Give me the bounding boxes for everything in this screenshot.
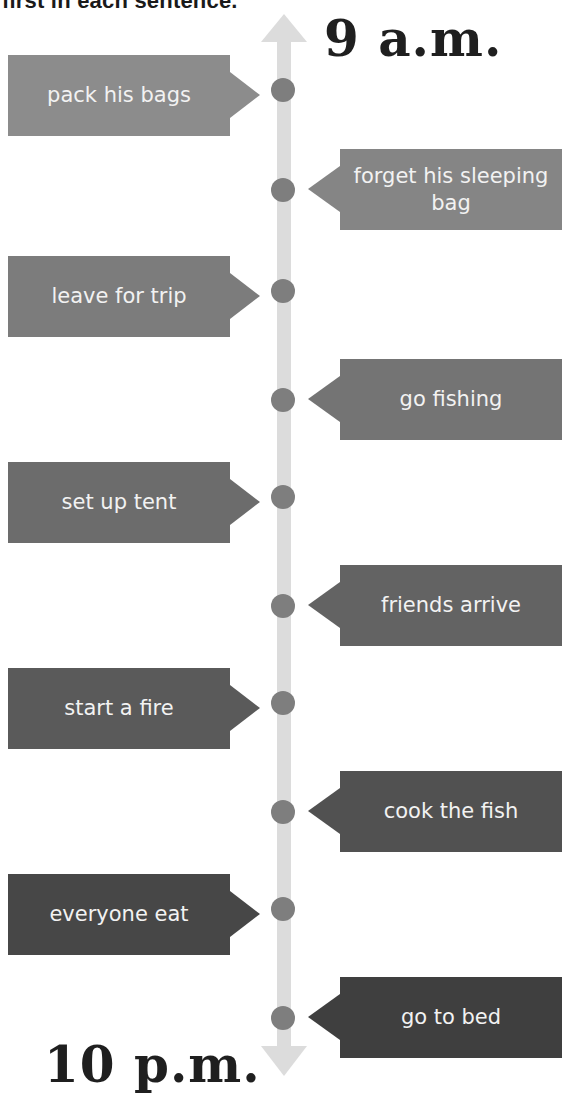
timeline-dot xyxy=(271,178,295,202)
event-callout: forget his sleeping bag xyxy=(340,149,562,230)
timeline-row: everyone eat xyxy=(0,874,572,956)
event-label: go to bed xyxy=(401,1004,501,1030)
event-callout: leave for trip xyxy=(8,256,230,337)
timeline-dot xyxy=(271,1006,295,1030)
callout-pointer-icon xyxy=(230,891,260,937)
callout-pointer-icon xyxy=(230,273,260,319)
event-label: set up tent xyxy=(62,489,177,515)
timeline-row: cook the fish xyxy=(0,771,572,853)
timeline-dot xyxy=(271,279,295,303)
timeline-row: start a fire xyxy=(0,668,572,750)
timeline-dot xyxy=(271,388,295,412)
timeline-row: go to bed xyxy=(0,977,572,1059)
event-callout: cook the fish xyxy=(340,771,562,852)
timeline-dot xyxy=(271,800,295,824)
timeline-dot xyxy=(271,594,295,618)
event-label: forget his sleeping bag xyxy=(350,163,552,216)
instruction-text: first in each sentence. xyxy=(2,0,238,14)
event-label: everyone eat xyxy=(49,901,188,927)
event-callout: go fishing xyxy=(340,359,562,440)
callout-pointer-icon xyxy=(308,994,340,1040)
timeline-dot xyxy=(271,78,295,102)
callout-pointer-icon xyxy=(308,788,340,834)
timeline-row: friends arrive xyxy=(0,565,572,647)
event-label: cook the fish xyxy=(384,798,519,824)
timeline-dot xyxy=(271,691,295,715)
event-label: pack his bags xyxy=(47,82,191,108)
callout-pointer-icon xyxy=(308,376,340,422)
timeline-row: pack his bags xyxy=(0,55,572,137)
event-callout: friends arrive xyxy=(340,565,562,646)
event-callout: go to bed xyxy=(340,977,562,1058)
event-callout: pack his bags xyxy=(8,55,230,136)
event-callout: everyone eat xyxy=(8,874,230,955)
callout-pointer-icon xyxy=(230,685,260,731)
event-callout: start a fire xyxy=(8,668,230,749)
timeline-row: set up tent xyxy=(0,462,572,544)
timeline-row: go fishing xyxy=(0,359,572,441)
event-label: go fishing xyxy=(400,386,503,412)
timeline-dot xyxy=(271,897,295,921)
callout-pointer-icon xyxy=(308,166,340,212)
callout-pointer-icon xyxy=(230,72,260,118)
timeline-row: leave for trip xyxy=(0,256,572,338)
event-label: friends arrive xyxy=(381,592,521,618)
timeline-row: forget his sleeping bag xyxy=(0,149,572,231)
event-label: start a fire xyxy=(64,695,173,721)
event-callout: set up tent xyxy=(8,462,230,543)
event-label: leave for trip xyxy=(51,283,186,309)
callout-pointer-icon xyxy=(308,582,340,628)
timeline-dot xyxy=(271,485,295,509)
callout-pointer-icon xyxy=(230,479,260,525)
